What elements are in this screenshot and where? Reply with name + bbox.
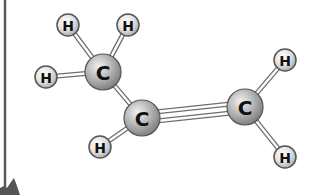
carbon-atom-C3: C <box>227 89 263 125</box>
atom-label: H <box>62 18 74 34</box>
atom-label: C <box>238 96 253 120</box>
hydrogen-atom-H5: H <box>274 49 296 71</box>
hydrogen-atom-H3: H <box>35 66 57 88</box>
atom-label: C <box>96 61 111 85</box>
hydrogen-atom-H4: H <box>89 136 111 158</box>
atom-label: H <box>122 18 134 34</box>
carbon-atom-C2: C <box>124 100 160 136</box>
carbon-atom-C1: C <box>85 54 121 90</box>
atom-label: H <box>279 150 291 166</box>
hydrogen-atom-H6: H <box>274 146 296 168</box>
corner-shape <box>0 178 20 195</box>
hydrogen-atom-H2: H <box>117 14 139 36</box>
atom-label: H <box>40 70 52 86</box>
hydrogen-atom-H1: H <box>57 14 79 36</box>
atom-label: H <box>94 140 106 156</box>
atom-label: H <box>279 53 291 69</box>
atom-label: C <box>135 107 150 131</box>
molecule-diagram: HHHCCHCHH <box>0 0 330 195</box>
